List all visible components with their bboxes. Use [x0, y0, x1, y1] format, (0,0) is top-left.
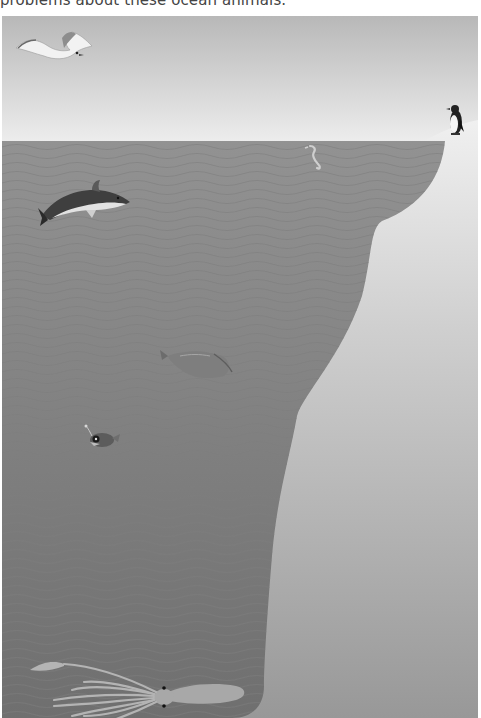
caption-text: problems about these ocean animals. [0, 0, 481, 11]
ocean-scene [2, 16, 478, 718]
